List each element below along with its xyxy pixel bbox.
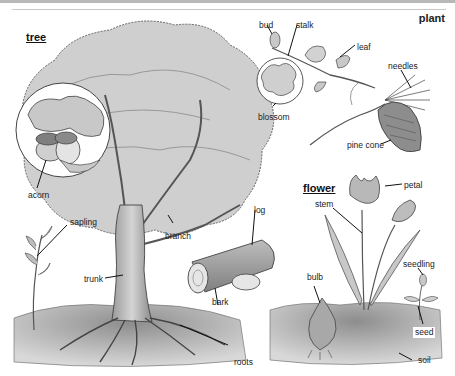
label-branch: branch (165, 232, 191, 241)
label-seed: seed (413, 327, 435, 338)
label-bud: bud (259, 21, 273, 30)
label-log: log (254, 206, 265, 215)
label-trunk: trunk (84, 275, 103, 284)
label-bark: bark (212, 298, 229, 307)
plant-illustration (0, 0, 455, 376)
section-title-plant: plant (419, 13, 445, 24)
label-seedling: seedling (403, 260, 435, 269)
label-needles: needles (388, 62, 418, 71)
label-petal: petal (404, 181, 422, 190)
label-acorn: acorn (28, 191, 49, 200)
tree-illustration (14, 21, 274, 367)
label-stalk: stalk (296, 21, 313, 30)
label-leaf: leaf (357, 43, 371, 52)
heading-tree: tree (26, 32, 46, 43)
label-pine-cone: pine cone (347, 141, 384, 150)
label-stem: stem (315, 200, 333, 209)
label-bulb: bulb (307, 273, 323, 282)
plant-illustration-group (257, 25, 430, 152)
heading-flower: flower (303, 183, 335, 194)
label-roots: roots (234, 358, 253, 367)
label-soil: soil (418, 356, 431, 365)
label-sapling: sapling (70, 218, 97, 227)
label-blossom: blossom (258, 113, 290, 122)
